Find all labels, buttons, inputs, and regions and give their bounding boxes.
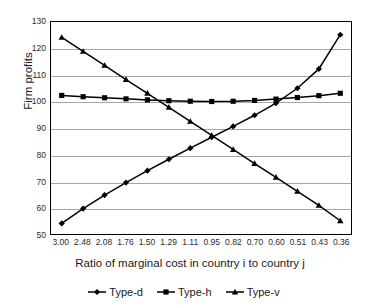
data-point-marker (123, 76, 129, 82)
x-axis-title: Ratio of marginal cost in country i to c… (40, 256, 340, 270)
chart-legend: Type-dType-hType-v (0, 283, 367, 301)
data-point-marker (294, 188, 300, 194)
y-axis-tick-label: 60 (22, 204, 46, 212)
chart-figure: Firm profits 1301201101009080706050 3.00… (0, 0, 367, 308)
data-point-marker (252, 98, 257, 103)
y-axis-tick-label: 70 (22, 178, 46, 186)
legend-entry-type-d[interactable]: Type-d (87, 286, 143, 299)
data-point-marker (230, 146, 236, 152)
legend-entry-type-h[interactable]: Type-h (156, 286, 212, 299)
data-point-marker (144, 90, 150, 96)
y-axis-tick-label: 100 (22, 97, 46, 105)
data-point-marker (187, 118, 193, 124)
y-axis-tick-label: 130 (22, 17, 46, 25)
data-point-marker (230, 123, 236, 129)
data-point-marker (316, 202, 322, 208)
y-axis-tick-label: 120 (22, 44, 46, 52)
legend-entry-type-v[interactable]: Type-v (225, 286, 280, 299)
data-point-marker (251, 160, 257, 166)
data-point-marker (166, 104, 172, 110)
legend-marker-square-icon (156, 286, 176, 298)
data-point-marker (123, 96, 128, 101)
x-axis-tick-labels: 3.002.482.081.761.501.291.110.950.820.70… (50, 237, 352, 251)
data-point-marker (316, 93, 321, 98)
data-point-marker (58, 34, 64, 40)
data-point-marker (144, 168, 150, 174)
legend-marker-triangle-icon (225, 286, 245, 298)
data-point-marker (166, 98, 171, 103)
y-axis-tick-label: 80 (22, 151, 46, 159)
series-type-h (59, 91, 343, 104)
y-axis-tick-label: 90 (22, 124, 46, 132)
legend-label: Type-h (178, 286, 212, 299)
data-point-marker (123, 179, 129, 185)
series-layer (51, 22, 351, 234)
series-type-v (58, 34, 343, 223)
y-axis-tick-label: 50 (22, 231, 46, 239)
legend-marker-diamond-icon (87, 286, 107, 298)
data-point-marker (166, 156, 172, 162)
data-point-marker (59, 93, 64, 98)
data-point-marker (101, 62, 107, 68)
x-axis-tick-label: 0.36 (326, 237, 356, 247)
data-point-marker (273, 97, 278, 102)
legend-label: Type-v (247, 286, 280, 299)
legend-label: Type-d (109, 286, 143, 299)
data-point-marker (187, 145, 193, 151)
data-point-marker (188, 99, 193, 104)
data-point-marker (145, 97, 150, 102)
data-point-marker (251, 112, 257, 118)
data-point-marker (231, 99, 236, 104)
data-point-marker (81, 94, 86, 99)
data-point-marker (338, 91, 343, 96)
data-point-marker (295, 95, 300, 100)
plot-area (50, 21, 352, 235)
data-point-marker (208, 132, 214, 138)
y-axis-tick-label: 110 (22, 71, 46, 79)
data-point-marker (209, 99, 214, 104)
data-point-marker (273, 174, 279, 180)
data-point-marker (102, 95, 107, 100)
